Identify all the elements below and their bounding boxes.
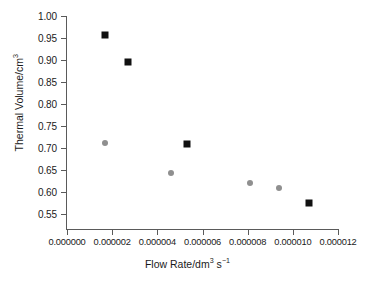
scatter-chart: 0.550.600.650.700.750.800.850.900.951.00… (0, 0, 375, 282)
x-tick-label: 0.000008 (229, 237, 266, 247)
x-tick-label: 0.000000 (48, 237, 85, 247)
x-axis-title: Flow Rate/dm3 s−1 (0, 256, 375, 270)
x-tick-label: 0.000012 (319, 237, 356, 247)
y-tick (61, 148, 66, 149)
y-tick (61, 104, 66, 105)
data-point-gray-circles (168, 170, 174, 176)
data-point-black-squares (183, 140, 190, 147)
y-tick (61, 192, 66, 193)
y-tick-label: 0.90 (38, 55, 57, 66)
data-point-black-squares (124, 58, 131, 65)
x-tick (112, 230, 113, 235)
y-tick-label: 0.55 (38, 209, 57, 220)
y-tick (61, 126, 66, 127)
y-tick-label: 0.80 (38, 99, 57, 110)
data-point-gray-circles (247, 180, 253, 186)
y-tick-label: 0.75 (38, 121, 57, 132)
x-tick (67, 230, 68, 235)
y-tick (61, 170, 66, 171)
x-tick (248, 230, 249, 235)
y-tick-label: 0.65 (38, 165, 57, 176)
plot-area (67, 16, 338, 214)
y-tick-label: 0.70 (38, 143, 57, 154)
x-tick (157, 230, 158, 235)
y-tick-label: 0.60 (38, 187, 57, 198)
y-tick (61, 60, 66, 61)
x-tick (293, 230, 294, 235)
y-tick-label: 0.85 (38, 77, 57, 88)
data-point-gray-circles (276, 185, 282, 191)
y-tick-label: 1.00 (38, 11, 57, 22)
y-tick (61, 82, 66, 83)
data-point-black-squares (305, 200, 312, 207)
x-tick-label: 0.000002 (94, 237, 131, 247)
x-tick (203, 230, 204, 235)
data-point-black-squares (102, 31, 109, 38)
y-tick (61, 214, 66, 215)
x-tick-label: 0.000010 (274, 237, 311, 247)
x-tick (338, 230, 339, 235)
data-point-gray-circles (102, 140, 108, 146)
y-tick (61, 38, 66, 39)
x-tick-label: 0.000004 (139, 237, 176, 247)
y-axis-title: Thermal Volume/cm3 (11, 3, 25, 203)
x-tick-label: 0.000006 (184, 237, 221, 247)
y-tick-label: 0.95 (38, 33, 57, 44)
y-tick (61, 16, 66, 17)
